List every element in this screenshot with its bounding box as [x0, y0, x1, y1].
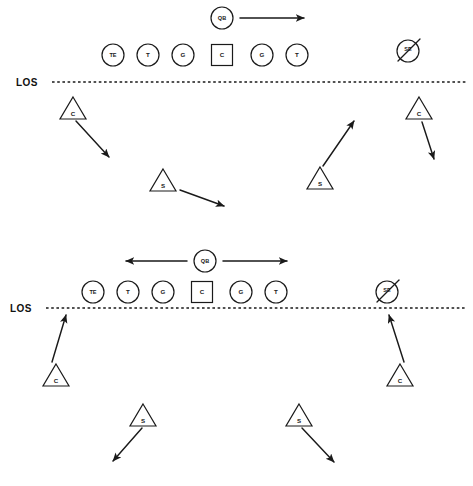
player-se-bottom[interactable]: SE: [376, 280, 399, 303]
player-rg-bottom[interactable]: G: [230, 281, 252, 303]
arrow-s-left-bottom: [113, 428, 142, 461]
player-lg-top[interactable]: G: [172, 44, 194, 66]
s-left-label-bottom: S: [141, 417, 145, 424]
rt-label-top: T: [295, 51, 299, 58]
rt-label-bottom: T: [274, 288, 278, 295]
cb-right-label-bottom: C: [398, 377, 403, 384]
player-cornerback-right-bottom[interactable]: C: [387, 364, 413, 386]
player-lg-bottom[interactable]: G: [152, 281, 174, 303]
arrow-cb-left-top: [76, 121, 109, 157]
player-te-bottom[interactable]: TE: [82, 281, 104, 303]
arrow-cb-right-bottom: [389, 315, 404, 362]
te-label-bottom: TE: [89, 289, 96, 295]
te-label-top: TE: [109, 52, 116, 58]
rg-label-top: G: [260, 51, 265, 58]
player-cornerback-left-top[interactable]: C: [60, 97, 86, 119]
s-right-label-bottom: S: [297, 417, 301, 424]
center-label-bottom: C: [200, 288, 205, 295]
player-rg-top[interactable]: G: [251, 44, 273, 66]
player-safety-right-bottom[interactable]: S: [286, 404, 312, 426]
player-safety-right-top[interactable]: S: [307, 167, 333, 189]
player-qb-bottom[interactable]: QB: [194, 250, 216, 272]
arrow-s-right-top: [323, 121, 354, 166]
player-center-top[interactable]: C: [212, 45, 233, 66]
player-lt-top[interactable]: T: [137, 44, 159, 66]
player-cornerback-left-bottom[interactable]: C: [43, 364, 69, 386]
qb-label-bottom: QB: [201, 258, 209, 264]
player-safety-left-top[interactable]: S: [150, 169, 176, 191]
player-rt-top[interactable]: T: [286, 44, 308, 66]
cb-left-label-bottom: C: [54, 377, 59, 384]
arrow-s-right-bottom: [302, 428, 334, 462]
arrow-s-left-top: [180, 190, 224, 206]
lt-label-bottom: T: [126, 288, 130, 295]
arrow-cb-left-bottom: [52, 315, 66, 362]
cb-left-label-top: C: [71, 110, 76, 117]
rg-label-bottom: G: [239, 288, 244, 295]
s-left-label-top: S: [161, 182, 165, 189]
arrow-cb-right-top: [422, 122, 434, 159]
los-label-bottom: LOS: [10, 303, 32, 314]
formation-diagram-canvas: LOS QB TE T G C G T: [0, 0, 473, 486]
los-label-top: LOS: [16, 77, 38, 88]
player-center-bottom[interactable]: C: [192, 282, 213, 303]
lg-label-bottom: G: [161, 288, 166, 295]
qb-label-top: QB: [218, 15, 226, 21]
player-safety-left-bottom[interactable]: S: [130, 404, 156, 426]
lg-label-top: G: [181, 51, 186, 58]
top-formation: LOS QB TE T G C G T: [16, 7, 466, 206]
center-label-top: C: [220, 51, 225, 58]
player-rt-bottom[interactable]: T: [265, 281, 287, 303]
player-te-top[interactable]: TE: [102, 44, 124, 66]
lt-label-top: T: [146, 51, 150, 58]
s-right-label-top: S: [318, 180, 322, 187]
bottom-formation: LOS QB TE T G C G: [10, 250, 466, 462]
player-cornerback-right-top[interactable]: C: [406, 97, 432, 119]
player-se-top[interactable]: SE: [397, 39, 420, 62]
player-lt-bottom[interactable]: T: [117, 281, 139, 303]
cb-right-label-top: C: [417, 110, 422, 117]
player-qb-top[interactable]: QB: [211, 7, 233, 29]
